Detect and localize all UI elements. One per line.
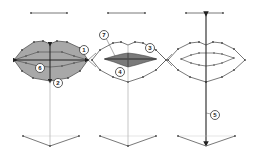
inner-lip-shape (104, 53, 157, 67)
outer-lip-shape (14, 41, 88, 81)
top-reference-bar (185, 12, 224, 14)
lip-diagram: 1 6 2 (0, 0, 256, 151)
corner-connector-right (160, 54, 172, 66)
top-reference-bar (30, 12, 68, 14)
top-reference-bar (107, 12, 146, 14)
inner-lip-outline (181, 53, 234, 66)
callout-3: 3 (146, 44, 155, 53)
lip-diagram-canvas: 1 6 2 (0, 0, 256, 151)
bottom-chevron (22, 135, 80, 147)
callout-7: 7 (100, 31, 109, 40)
callout-2: 2 (54, 79, 63, 88)
figure-right: 5 (160, 12, 246, 146)
callout-1: 1 (80, 46, 89, 55)
callout-6: 6 (36, 64, 45, 73)
callout-4: 4 (116, 68, 125, 77)
figure-left: 1 6 2 (13, 12, 89, 147)
figure-middle: 7 3 4 (88, 12, 167, 147)
callout-5: 5 (211, 111, 220, 120)
callout-7-leader (106, 38, 115, 56)
